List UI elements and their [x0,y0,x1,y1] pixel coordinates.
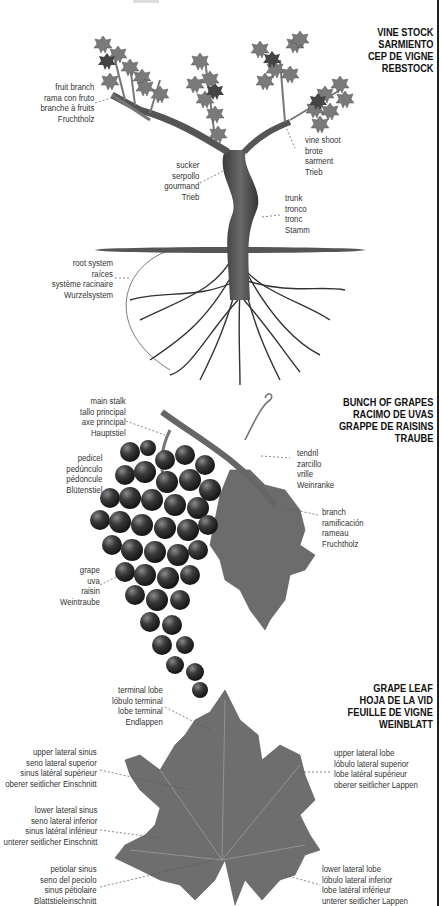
label-fr: branche à fruits [40,103,94,114]
title-de: REBSTOCK [367,62,433,74]
label-tendril: tendril zarcillo vrille Weinranke [297,448,334,490]
label-de: oberer seitlicher Lappen [334,780,418,791]
label-en: trunk [285,193,310,204]
label-en: tendril [297,448,334,459]
label-main-stalk: main stalk tallo principal axe principal… [80,396,126,438]
label-es: serpollo [164,171,199,182]
label-de: Stamm [285,225,310,236]
label-es: lóbulo lateral superior [334,759,418,770]
label-de: Trieb [305,167,341,178]
label-en: sucker [164,160,199,171]
label-en: terminal lobe [112,685,163,696]
label-fr: gourmand [164,181,199,192]
label-en: lower lateral lobe [322,864,408,875]
vine-stock-illustration [94,31,365,385]
label-es: ramificación [322,518,364,529]
label-fr: rameau [322,528,364,539]
title-es: SARMIENTO [367,38,433,50]
title-es: HOJA DE LA VID [348,694,433,706]
label-de: Weintraube [60,597,100,608]
label-lower-lateral-sinus: lower lateral sinus seno lateral inferio… [3,805,97,847]
label-sucker: sucker serpollo gourmand Trieb [164,160,199,202]
label-fr: tronc [285,214,310,225]
label-en: upper lateral sinus [5,747,97,758]
title-fr: FEUILLE DE VIGNE [348,706,433,718]
title-en: VINE STOCK [367,26,433,38]
label-de: Trieb [164,192,199,203]
label-trunk: trunk tronco tronc Stamm [285,193,310,235]
label-de: Hauptstiel [80,428,126,439]
label-en: root system [52,258,113,269]
label-en: vine shoot [305,135,341,146]
title-en: BUNCH OF GRAPES [339,396,433,408]
title-es: RACIMO DE UVAS [339,408,433,420]
label-es: seno lateral inferior [3,816,97,827]
label-en: upper lateral lobe [334,748,418,759]
title-bunch-of-grapes: BUNCH OF GRAPES RACIMO DE UVAS GRAPPE DE… [339,396,433,444]
title-fr: GRAPPE DE RAISINS [339,420,433,432]
label-es: raíces [52,269,113,280]
label-en: branch [322,507,364,518]
label-fr: raisin [60,586,100,597]
label-es: tallo principal [80,407,126,418]
label-en: main stalk [80,396,126,407]
label-en: pedicel [66,453,102,464]
label-fr: lobe latéral inférieur [322,885,408,896]
label-vine-shoot: vine shoot brote sarment Trieb [305,135,341,177]
label-branch: branch ramificación rameau Fruchtholz [322,507,364,549]
label-es: lóbulo lateral inferior [322,875,408,886]
label-en: grape [60,565,100,576]
title-en: GRAPE LEAF [348,682,433,694]
label-en: fruit branch [40,82,94,93]
bunch-of-grapes-illustration [90,394,315,698]
label-en: lower lateral sinus [3,805,97,816]
label-es: uva [60,576,100,587]
label-petiolar-sinus: petiolar sinus seno del peciolo sinus pé… [34,864,97,906]
title-grape-leaf: GRAPE LEAF HOJA DE LA VID FEUILLE DE VIG… [348,682,433,730]
label-fruit-branch: fruit branch rama con fruto branche à fr… [40,82,94,124]
label-de: Fruchtholz [322,539,364,550]
label-fr: sinus pétiolaire [34,885,97,896]
label-en: petiolar sinus [34,864,97,875]
label-fr: sinus latéral supérieur [5,768,97,779]
label-de: Weinranke [297,480,334,491]
label-root-system: root system raíces système racinaire Wur… [52,258,113,300]
label-lower-lateral-lobe: lower lateral lobe lóbulo lateral inferi… [322,864,408,906]
label-fr: lobe terminal [112,706,163,717]
title-de: WEINBLATT [348,718,433,730]
label-fr: système racinaire [52,279,113,290]
label-terminal-lobe: terminal lobe lóbulo terminal lobe termi… [112,685,163,727]
label-es: zarcillo [297,459,334,470]
label-de: unterer seitlicher Einschnitt [3,837,97,848]
label-grape: grape uva raisin Weintraube [60,565,100,607]
label-es: rama con fruto [40,93,94,104]
label-fr: pédoncule [66,474,102,485]
label-pedicel: pedicel pedúnculo pédoncule Blütenstiel [66,453,102,495]
label-de: Blattstieleinschnitt [34,896,97,906]
title-de: TRAUBE [339,432,433,444]
label-de: Fruchtholz [40,114,94,125]
label-es: brote [305,146,341,157]
title-vine-stock: VINE STOCK SARMIENTO CEP DE VIGNE REBSTO… [367,26,433,74]
label-de: Blütenstiel [66,485,102,496]
label-de: oberer seitlicher Einschnitt [5,779,97,790]
label-es: seno lateral superior [5,758,97,769]
label-es: lóbulo terminal [112,696,163,707]
label-es: tronco [285,204,310,215]
label-fr: vrille [297,469,334,480]
label-es: seno del peciolo [34,875,97,886]
label-fr: axe principal [80,417,126,428]
label-de: Wurzelsystem [52,290,113,301]
label-fr: lobe latéral supérieur [334,769,418,780]
label-upper-lateral-lobe: upper lateral lobe lóbulo lateral superi… [334,748,418,790]
title-fr: CEP DE VIGNE [367,50,433,62]
label-fr: sinus latéral inférieur [3,826,97,837]
label-upper-lateral-sinus: upper lateral sinus seno lateral superio… [5,747,97,789]
label-de: unterer seitlicher Lappen [322,896,408,906]
label-fr: sarment [305,156,341,167]
label-de: Endlappen [112,717,163,728]
label-es: pedúnculo [66,464,102,475]
